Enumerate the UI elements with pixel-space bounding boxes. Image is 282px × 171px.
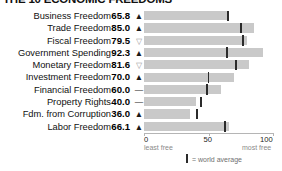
bar-track [144,11,273,20]
legend-label: = world average [192,155,242,164]
row-score: 60.0 [103,84,130,96]
bar-track [144,73,273,82]
axis-tick-label: 50 [204,135,212,144]
bar-track [144,23,273,32]
world-average-tick [224,121,226,132]
score-bar [144,11,229,20]
world-average-tick [242,35,244,46]
table-row: Government Spending92.3▲ [0,47,282,59]
row-label: Government Spending [18,47,111,59]
row-label: Investment Freedom [26,71,111,83]
bar-rows: Business Freedom65.8▲Trade Freedom85.0▲F… [0,10,282,133]
row-score: 85.0 [103,22,130,34]
table-row: Investment Freedom70.0▲ [0,71,282,83]
score-bar [144,23,254,32]
row-label: Monetary Freedom [32,59,111,71]
row-score: 66.1 [103,121,130,133]
bar-track [144,97,273,106]
axis-end-label: least free [144,144,173,151]
score-bar [144,85,221,94]
row-label: Fdm. from Corruption [23,108,111,120]
score-bar [144,73,234,82]
economic-freedoms-chart: THE 10 ECONOMIC FREEDOMS Business Freedo… [0,0,282,171]
axis-tick-mark [273,133,274,136]
world-average-tick [206,84,208,95]
row-label: Business Freedom [33,10,111,22]
table-row: Business Freedom65.8▲ [0,10,282,22]
bar-track [144,60,273,69]
row-score: 70.0 [103,71,130,83]
row-score: 92.3 [103,47,130,59]
row-label: Property Rights [47,96,111,108]
bar-track [144,109,273,118]
bar-track [144,48,273,57]
table-row: Financial Freedom60.0— [0,84,282,96]
score-bar [144,122,229,131]
vertical-tick-icon [186,154,188,163]
axis-tick-label: 0 [144,135,148,144]
axis-end-label: most free [242,144,271,151]
table-row: Labor Freedom66.1▲ [0,121,282,133]
axis-tick-label: 100 [260,135,273,144]
world-average-tick [200,97,202,108]
row-score: 40.0 [103,96,130,108]
row-label: Trade Freedom [47,22,111,34]
world-average-tick [227,11,229,22]
world-average-tick [235,60,237,71]
table-row: Fdm. from Corruption36.0▲ [0,108,282,120]
row-score: 65.8 [103,10,130,22]
table-row: Trade Freedom85.0▲ [0,22,282,34]
table-row: Property Rights40.0— [0,96,282,108]
row-label: Labor Freedom [47,121,111,133]
world-average-tick [226,47,228,58]
page-title: THE 10 ECONOMIC FREEDOMS [3,0,172,5]
table-row: Monetary Freedom81.6▽ [0,59,282,71]
row-score: 81.6 [103,59,130,71]
world-average-tick [240,23,242,34]
row-label: Fiscal Freedom [47,35,111,47]
row-label: Financial Freedom [34,84,111,96]
row-score: 36.0 [103,108,130,120]
score-bar [144,36,247,45]
bar-track [144,85,273,94]
score-bar [144,48,263,57]
world-average-tick [208,72,210,83]
score-bar [144,60,249,69]
row-score: 79.5 [103,35,130,47]
score-bar [144,109,190,118]
world-average-tick [196,109,198,120]
bar-track [144,36,273,45]
table-row: Fiscal Freedom79.5▽ [0,35,282,47]
score-bar [144,97,196,106]
bar-track [144,122,273,131]
